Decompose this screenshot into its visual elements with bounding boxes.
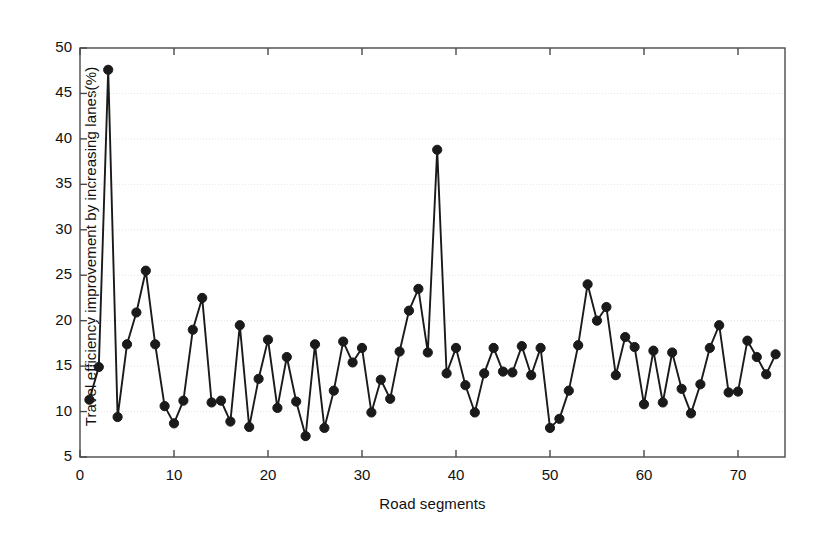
- data-point: [132, 308, 141, 317]
- data-point: [404, 306, 413, 315]
- data-point: [498, 367, 507, 376]
- data-point: [658, 398, 667, 407]
- data-point: [602, 302, 611, 311]
- data-point: [527, 371, 536, 380]
- data-point: [216, 396, 225, 405]
- data-point: [489, 343, 498, 352]
- data-point: [677, 384, 686, 393]
- data-point: [282, 352, 291, 361]
- data-point: [423, 348, 432, 357]
- data-point: [686, 409, 695, 418]
- data-point: [113, 412, 122, 421]
- data-point: [141, 266, 150, 275]
- data-point: [564, 386, 573, 395]
- data-point: [151, 340, 160, 349]
- data-point: [414, 284, 423, 293]
- data-point: [301, 432, 310, 441]
- data-point: [292, 397, 301, 406]
- data-point: [762, 370, 771, 379]
- data-point: [160, 402, 169, 411]
- data-point: [263, 335, 272, 344]
- data-point: [649, 346, 658, 355]
- data-point: [254, 374, 263, 383]
- data-point: [461, 381, 470, 390]
- data-point: [179, 396, 188, 405]
- data-point: [696, 380, 705, 389]
- data-point: [517, 342, 526, 351]
- data-point: [771, 350, 780, 359]
- data-point: [583, 280, 592, 289]
- data-point: [470, 408, 479, 417]
- data-point: [94, 362, 103, 371]
- data-point: [376, 375, 385, 384]
- data-point: [339, 337, 348, 346]
- data-point: [245, 422, 254, 431]
- data-point: [386, 394, 395, 403]
- data-point: [574, 341, 583, 350]
- plot-area: [0, 0, 816, 535]
- data-point: [188, 325, 197, 334]
- data-point: [348, 358, 357, 367]
- data-point: [442, 369, 451, 378]
- data-point: [235, 321, 244, 330]
- data-point: [555, 414, 564, 423]
- data-point: [367, 408, 376, 417]
- data-point: [508, 368, 517, 377]
- data-point: [733, 387, 742, 396]
- data-point: [320, 423, 329, 432]
- data-point: [480, 369, 489, 378]
- data-point: [226, 417, 235, 426]
- data-point: [621, 332, 630, 341]
- data-point: [536, 343, 545, 352]
- data-point: [705, 343, 714, 352]
- data-point: [198, 293, 207, 302]
- data-point: [752, 352, 761, 361]
- data-point: [169, 419, 178, 428]
- data-point: [592, 316, 601, 325]
- data-point: [207, 398, 216, 407]
- data-point: [122, 340, 131, 349]
- data-point: [668, 348, 677, 357]
- data-point: [743, 336, 752, 345]
- data-point: [104, 65, 113, 74]
- data-point: [724, 388, 733, 397]
- data-point: [611, 371, 620, 380]
- data-point: [310, 340, 319, 349]
- data-point: [630, 342, 639, 351]
- series-line: [89, 70, 775, 436]
- data-point: [273, 403, 282, 412]
- data-point: [433, 145, 442, 154]
- data-point: [639, 400, 648, 409]
- data-point: [357, 343, 366, 352]
- data-point: [715, 321, 724, 330]
- data-point: [545, 423, 554, 432]
- axis-ticks: [80, 48, 738, 457]
- data-point: [329, 386, 338, 395]
- data-point: [85, 395, 94, 404]
- data-point: [451, 343, 460, 352]
- chart-figure: Travel efficiency improvement by increas…: [0, 0, 816, 535]
- data-point: [395, 347, 404, 356]
